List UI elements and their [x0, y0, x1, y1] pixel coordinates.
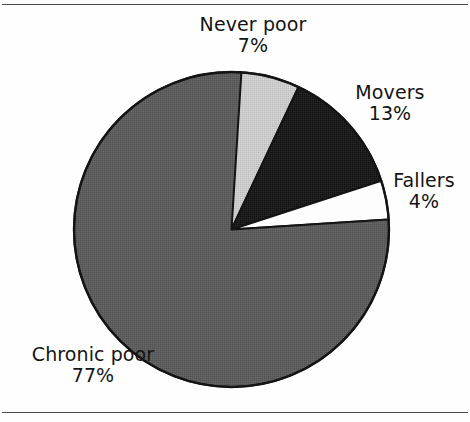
slice-label-movers-percent: 13%: [330, 103, 450, 124]
slice-label-never-poor-percent: 7%: [178, 35, 328, 56]
slice-label-movers: Movers 13%: [330, 82, 450, 125]
slice-label-fallers-name: Fallers: [393, 169, 455, 191]
slice-label-chronic-poor-percent: 77%: [8, 365, 178, 386]
slice-label-fallers: Fallers 4%: [378, 170, 470, 213]
slice-label-chronic-poor-name: Chronic poor: [32, 343, 154, 365]
slice-label-never-poor: Never poor 7%: [178, 14, 328, 57]
slice-label-never-poor-name: Never poor: [200, 13, 307, 35]
pie-chart-figure: Never poor 7% Movers 13% Fallers 4% Chro…: [0, 0, 470, 422]
slice-label-fallers-percent: 4%: [378, 191, 470, 212]
slice-label-movers-name: Movers: [355, 81, 424, 103]
slice-label-chronic-poor: Chronic poor 77%: [8, 344, 178, 387]
